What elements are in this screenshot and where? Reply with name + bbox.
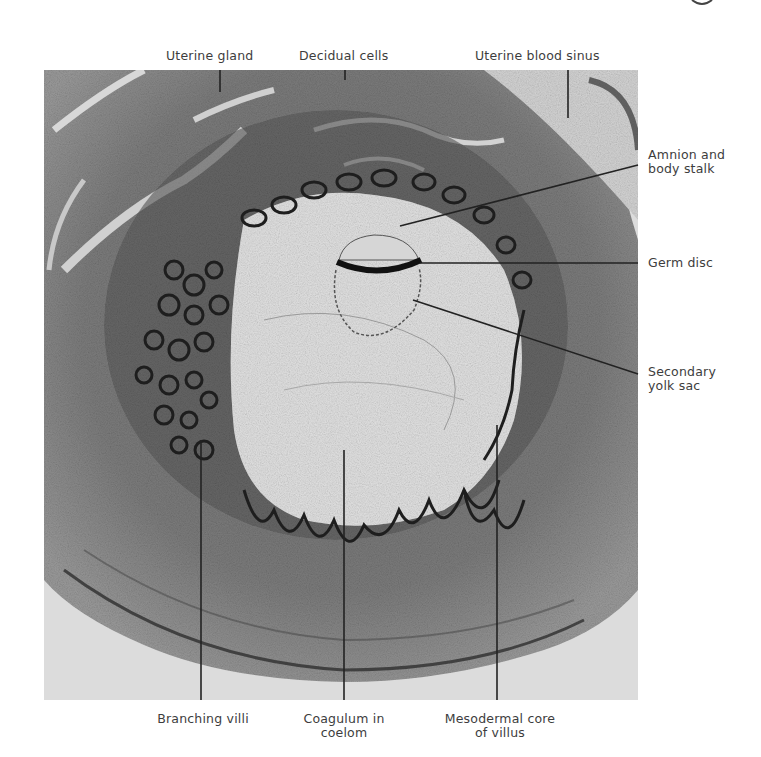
- label-uterine-blood-sinus: Uterine blood sinus: [475, 49, 600, 63]
- label-coagulum-line2: coelom: [288, 726, 400, 740]
- label-mesodermal-core: Mesodermal core of villus: [430, 712, 570, 740]
- label-germ-disc: Germ disc: [648, 256, 713, 270]
- label-coagulum-line1: Coagulum in: [288, 712, 400, 726]
- label-branching-villi: Branching villi: [140, 712, 266, 726]
- label-mesodermal-line2: of villus: [430, 726, 570, 740]
- label-coagulum-coelom: Coagulum in coelom: [288, 712, 400, 740]
- label-decidual-cells: Decidual cells: [299, 49, 388, 63]
- label-mesodermal-line1: Mesodermal core: [430, 712, 570, 726]
- label-yolk-sac-line2: yolk sac: [648, 379, 716, 393]
- label-amnion-line1: Amnion and: [648, 148, 725, 162]
- page-edge-mark: [690, 0, 720, 8]
- label-secondary-yolk-sac: Secondary yolk sac: [648, 365, 716, 393]
- label-amnion-body-stalk: Amnion and body stalk: [648, 148, 725, 176]
- histology-figure: Uterine gland Decidual cells Uterine blo…: [0, 0, 761, 757]
- label-yolk-sac-line1: Secondary: [648, 365, 716, 379]
- micrograph-image: [44, 70, 638, 700]
- label-uterine-gland: Uterine gland: [166, 49, 253, 63]
- micrograph: [44, 70, 638, 700]
- label-amnion-line2: body stalk: [648, 162, 725, 176]
